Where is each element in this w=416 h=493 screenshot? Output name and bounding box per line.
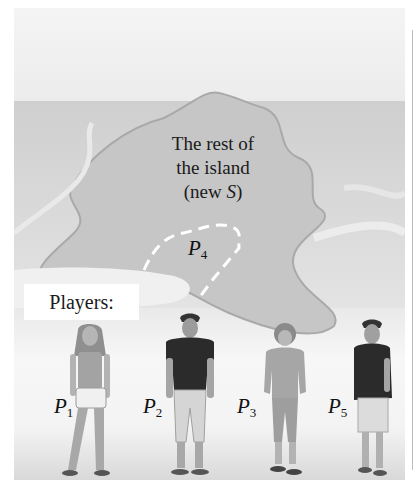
island-caption-line3: (new S) <box>128 180 298 204</box>
player-figure-p3 <box>258 322 312 482</box>
island-caption-line1: The rest of <box>128 132 298 156</box>
page-edge-line <box>412 30 413 470</box>
players-label-box: Players: <box>24 284 139 320</box>
player-figure-p2 <box>160 312 220 482</box>
player-figure-p5 <box>350 318 394 480</box>
player-label-p1: P1 <box>54 394 73 421</box>
island-caption-line2: the island <box>128 156 298 180</box>
players-label: Players: <box>49 291 113 314</box>
region-label-p4: P4 <box>188 236 207 263</box>
player-label-p3: P3 <box>237 394 256 421</box>
player-label-p2: P2 <box>143 394 162 421</box>
island-caption: The rest of the island (new S) <box>128 132 298 204</box>
player-label-p5: P5 <box>328 394 347 421</box>
